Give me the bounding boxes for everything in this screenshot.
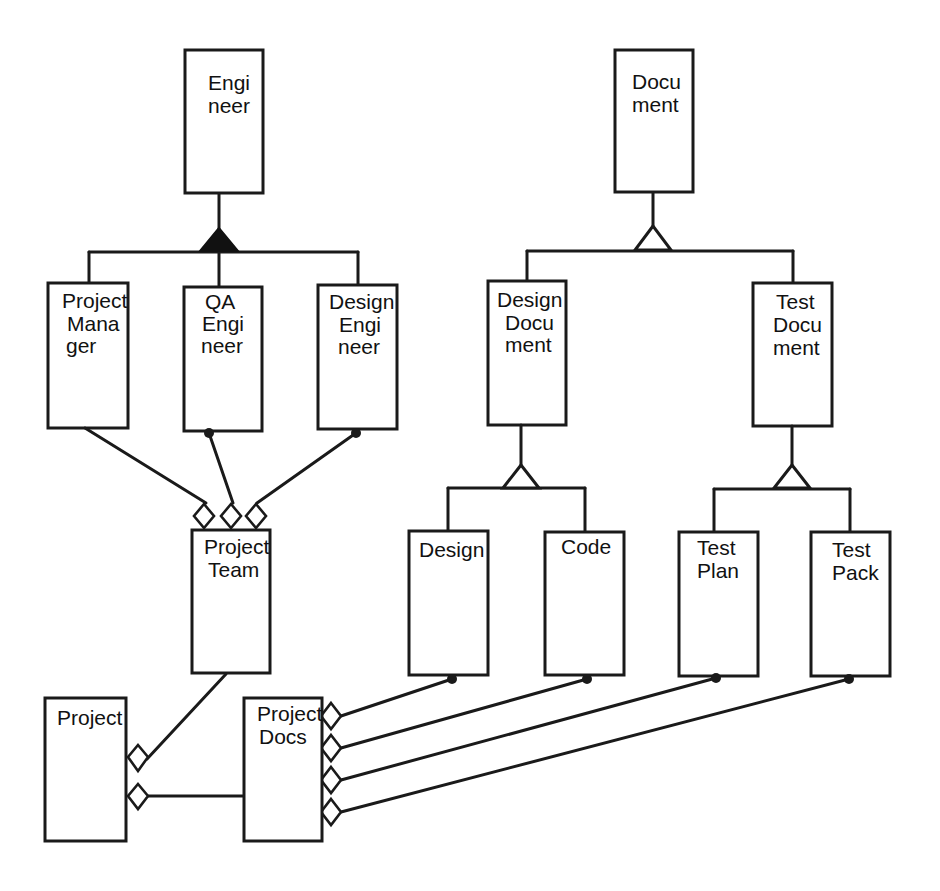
test-plan-label-1: Test <box>697 536 736 559</box>
aggregation-diamond-icon <box>128 745 148 771</box>
qa-to-team-line <box>209 433 233 503</box>
test-document-label-1: Test <box>776 290 815 313</box>
pm-to-team-line <box>85 428 206 503</box>
project-docs-aggregation <box>321 673 854 825</box>
project-manager-label-3: ger <box>66 334 96 357</box>
many-dot-icon <box>582 674 592 684</box>
aggregation-diamond-icon <box>246 504 266 528</box>
design-document-generalization <box>448 425 585 532</box>
many-dot-icon <box>844 674 854 684</box>
class-project-manager[interactable]: Project Mana ger <box>48 283 128 428</box>
design-document-label-3: ment <box>505 333 552 356</box>
class-design-engineer[interactable]: Design Engi neer <box>318 285 397 429</box>
engineer-generalization <box>89 193 358 287</box>
project-docs-label-1: Project <box>257 702 323 725</box>
aggregation-diamond-icon <box>321 799 341 825</box>
design-document-label-2: Docu <box>505 311 554 334</box>
project-docs-label-2: Docs <box>259 725 307 748</box>
class-design[interactable]: Design <box>409 531 488 675</box>
class-qa-engineer[interactable]: QA Engi neer <box>184 287 262 431</box>
test-pack-label-1: Test <box>832 538 871 561</box>
engineer-label-1: Engi <box>208 71 250 94</box>
class-document[interactable]: Docu ment <box>615 50 693 192</box>
qa-engineer-label-2: Engi <box>202 312 244 335</box>
test-plan-label-2: Plan <box>697 559 739 582</box>
document-generalization <box>527 192 793 283</box>
filled-triangle-icon <box>200 228 238 251</box>
test-document-label-3: ment <box>773 336 820 359</box>
aggregation-diamond-icon <box>321 703 341 729</box>
aggregation-diamond-icon <box>221 504 241 528</box>
class-diagram: Engi neer Project Mana ger QA Engi neer … <box>0 0 940 891</box>
docs-to-code-line <box>341 679 587 748</box>
class-project-docs[interactable]: Project Docs <box>244 698 323 841</box>
docs-to-test-pack-line <box>341 679 849 812</box>
project-label-1: Project <box>57 706 123 729</box>
document-label-2: ment <box>632 93 679 116</box>
team-to-project-line <box>147 674 226 759</box>
qa-engineer-label-3: neer <box>201 334 243 357</box>
many-dot-icon <box>447 674 457 684</box>
aggregation-diamond-icon <box>128 784 148 809</box>
project-aggregation <box>128 674 244 809</box>
design-engineer-label-1: Design <box>329 290 394 313</box>
design-label-1: Design <box>419 538 484 561</box>
many-dot-icon <box>711 673 721 683</box>
design-document-label-1: Design <box>497 288 562 311</box>
document-label-1: Docu <box>632 70 681 93</box>
class-project[interactable]: Project <box>45 698 126 841</box>
open-triangle-icon <box>503 465 539 488</box>
many-dot-icon <box>204 428 214 438</box>
code-label-1: Code <box>561 535 611 558</box>
docs-to-design-line <box>341 679 452 716</box>
project-team-aggregation <box>85 428 361 528</box>
test-document-generalization <box>714 426 850 532</box>
project-team-label-2: Team <box>208 558 259 581</box>
design-engineer-label-3: neer <box>338 335 380 358</box>
aggregation-diamond-icon <box>321 767 341 793</box>
project-manager-label-2: Mana <box>67 312 120 335</box>
qa-engineer-label-1: QA <box>205 290 235 313</box>
class-design-document[interactable]: Design Docu ment <box>488 281 566 425</box>
project-manager-label-1: Project <box>62 289 128 312</box>
class-project-team[interactable]: Project Team <box>192 530 270 673</box>
class-engineer[interactable]: Engi neer <box>185 50 263 193</box>
engineer-label-2: neer <box>208 94 250 117</box>
de-to-team-line <box>257 433 356 503</box>
aggregation-diamond-icon <box>321 735 341 761</box>
design-engineer-label-2: Engi <box>339 313 381 336</box>
class-test-plan[interactable]: Test Plan <box>679 532 758 676</box>
aggregation-diamond-icon <box>194 504 214 528</box>
test-document-label-2: Docu <box>773 313 822 336</box>
many-dot-icon <box>351 428 361 438</box>
test-pack-label-2: Pack <box>832 561 879 584</box>
open-triangle-icon <box>635 226 671 250</box>
open-triangle-icon <box>774 465 810 488</box>
class-test-document[interactable]: Test Docu ment <box>753 283 832 426</box>
project-team-label-1: Project <box>204 535 270 558</box>
class-code[interactable]: Code <box>545 532 624 675</box>
class-test-pack[interactable]: Test Pack <box>811 532 890 676</box>
